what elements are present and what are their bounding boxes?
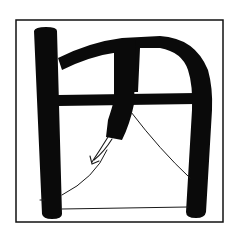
ink-character-illustration bbox=[0, 0, 235, 235]
